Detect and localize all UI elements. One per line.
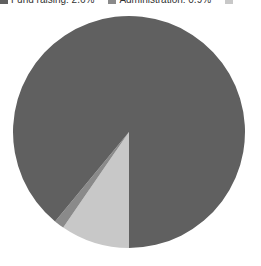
pie-slice bbox=[13, 16, 245, 248]
pie-chart bbox=[0, 0, 261, 266]
pie-slices bbox=[13, 16, 245, 248]
